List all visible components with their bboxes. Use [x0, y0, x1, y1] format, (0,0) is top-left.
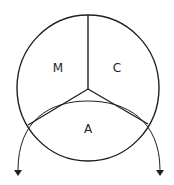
divider-right: [88, 89, 148, 124]
three-region-circle-diagram: M C A: [0, 0, 174, 185]
region-label-a: A: [84, 122, 93, 136]
region-label-m: M: [53, 61, 63, 75]
divider-left: [28, 89, 88, 125]
left-arrowhead-icon: [14, 170, 22, 176]
region-label-c: C: [113, 61, 121, 75]
right-arrowhead-icon: [156, 170, 164, 176]
